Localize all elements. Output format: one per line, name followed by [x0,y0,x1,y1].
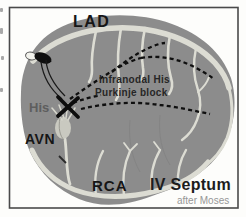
lad-label: LAD [73,14,110,30]
block-annotation-line1: Infranodal His [99,75,170,85]
his-label: His [29,101,49,114]
block-annotation-line2: Purkinje block [95,88,168,98]
avn-label: AVN [25,132,55,146]
figure-canvas: LAD His AVN RCA Infranodal His Purkinje … [0,0,246,217]
rca-label: RCA [92,178,128,193]
figure-credit: after Moses [177,196,229,206]
figure-title: IV Septum [150,177,231,193]
